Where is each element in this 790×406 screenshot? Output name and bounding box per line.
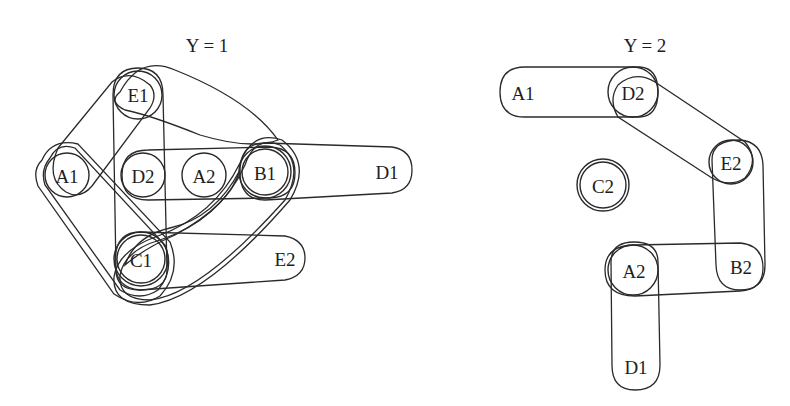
hypergraph-diagram: Y = 1 E1 [0, 0, 790, 406]
node-label-e2: E2 [274, 249, 295, 270]
node-label-d2: D2 [131, 166, 154, 187]
node-label-d1: D1 [375, 162, 398, 183]
node-label-a1-y2: A1 [511, 83, 534, 104]
node-label-b2: B2 [730, 257, 752, 278]
node-label-b1: B1 [254, 163, 276, 184]
hyperedges-y2 [500, 67, 765, 390]
node-label-e1: E1 [127, 85, 148, 106]
nodes-y2: A1 D2 E2 C2 A2 B2 D1 [511, 67, 753, 378]
node-label-c1: C1 [130, 250, 152, 271]
panel-y1: Y = 1 E1 [36, 35, 412, 305]
node-label-c2: C2 [592, 176, 614, 197]
node-label-d1-y2: D1 [624, 357, 647, 378]
node-label-e2-y2: E2 [720, 153, 741, 174]
panel-title-y2: Y = 2 [624, 35, 667, 56]
node-label-a2-y2: A2 [622, 261, 645, 282]
node-label-a2: A2 [192, 166, 215, 187]
panel-title-y1: Y = 1 [186, 35, 229, 56]
node-label-a1: A1 [55, 166, 78, 187]
panel-y2: Y = 2 A1 D2 E2 C2 A2 B2 D1 [500, 35, 765, 390]
node-label-d2-y2: D2 [621, 83, 644, 104]
